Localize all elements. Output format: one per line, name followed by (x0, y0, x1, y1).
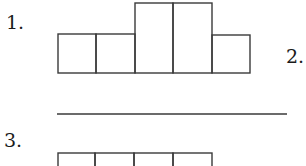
item-3-box-4 (173, 153, 212, 166)
item-1-label: 1. (6, 11, 24, 33)
item-1-box-3-tall (135, 3, 173, 73)
item-3-label: 3. (4, 129, 22, 151)
item-2-label: 2. (286, 45, 304, 67)
item-1-box-4-tall (173, 3, 212, 73)
item-1-box-5 (212, 35, 250, 73)
worksheet-diagram: 1. 2. 3. (0, 0, 306, 166)
item-3-box-3 (134, 153, 173, 166)
item-1-boxes (58, 3, 250, 73)
item-3-box-1 (58, 153, 95, 166)
item-3-boxes (58, 153, 212, 166)
item-3-box-2 (95, 153, 134, 166)
item-1-box-2 (96, 34, 135, 73)
item-1-box-1 (58, 34, 96, 73)
